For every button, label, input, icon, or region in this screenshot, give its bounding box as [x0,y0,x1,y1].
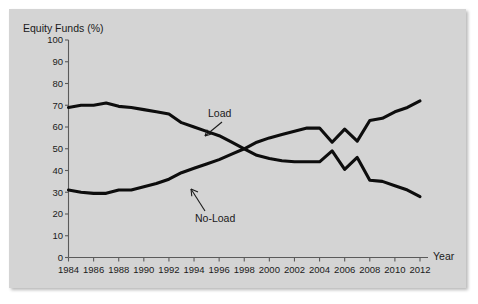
annotation-arrow-no-load [191,189,205,211]
x-tick-label: 2012 [409,264,430,275]
y-axis-title: Equity Funds (%) [23,22,104,34]
chart-panel: Equity Funds (%) 0102030405060708090100 … [9,9,466,288]
x-tick-label: 1986 [83,264,104,275]
y-tick-label: 90 [52,56,63,67]
y-tick-label: 50 [52,143,63,154]
x-tick-label: 2006 [334,264,355,275]
y-tick-label: 60 [52,121,63,132]
x-tick-label: 1990 [133,264,154,275]
x-tick-label: 1992 [158,264,179,275]
series-line-no-load [69,101,421,193]
y-tick-label: 30 [52,187,63,198]
x-tick-label: 2004 [309,264,330,275]
x-tick-label: 1994 [183,264,204,275]
x-tick-label: 2000 [259,264,280,275]
x-tick-label: 2010 [384,264,405,275]
x-axis-title: Year [433,250,455,262]
y-tick-label: 80 [52,78,63,89]
y-tick-label: 20 [52,208,63,219]
figure: Equity Funds (%) 0102030405060708090100 … [0,0,478,304]
annotation-label-no-load: No-Load [195,212,235,224]
x-tick-label: 2008 [359,264,380,275]
y-tick-label: 70 [52,100,63,111]
y-tick-label: 0 [58,252,63,263]
x-tick-label: 1988 [108,264,129,275]
x-axis-tick-marks [69,258,421,262]
x-tick-label: 1998 [234,264,255,275]
y-tick-label: 100 [47,34,63,45]
annotation-label-load: Load [208,107,232,119]
x-tick-label: 2002 [284,264,305,275]
y-tick-label: 40 [52,165,63,176]
y-tick-label: 10 [52,230,63,241]
x-axis-tick-labels: 1984198619881990199219941996199820002002… [58,264,431,275]
line-chart: Equity Funds (%) 0102030405060708090100 … [9,9,466,288]
y-axis-tick-labels: 0102030405060708090100 [47,34,63,263]
x-tick-label: 1984 [58,264,79,275]
x-tick-label: 1996 [209,264,230,275]
